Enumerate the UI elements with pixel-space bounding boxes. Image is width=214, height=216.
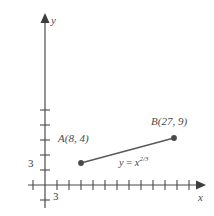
y-axis-arrowhead [41, 13, 50, 23]
point-a-marker [78, 160, 84, 166]
coordinate-plot [0, 0, 214, 216]
equation-exponent: 2/3 [140, 155, 149, 163]
point-a-label: A(8, 4) [58, 133, 89, 144]
curve-equation-label: y = x2/3 [119, 156, 148, 168]
x-tick-label-3: 3 [53, 191, 59, 202]
point-b-marker [171, 135, 177, 141]
figure-canvas: y x 3 3 A(8, 4) B(27, 9) y = x2/3 [0, 0, 214, 216]
x-axis-label: x [198, 192, 203, 203]
y-tick-label-3: 3 [28, 158, 34, 169]
equation-equals-sign: = [124, 157, 135, 168]
x-axis-arrowhead [196, 181, 206, 190]
point-b-label: B(27, 9) [151, 116, 187, 127]
y-axis-label: y [51, 15, 56, 26]
